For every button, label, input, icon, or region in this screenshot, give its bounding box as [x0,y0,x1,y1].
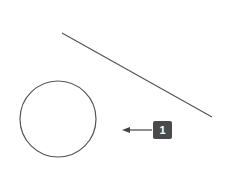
diagonal-line [62,33,212,117]
callout-badge: 1 [153,121,172,139]
circle-shape [20,81,96,157]
diagram-canvas [0,0,235,172]
arrow-left-icon [122,127,130,133]
callout-label: 1 [159,124,165,136]
